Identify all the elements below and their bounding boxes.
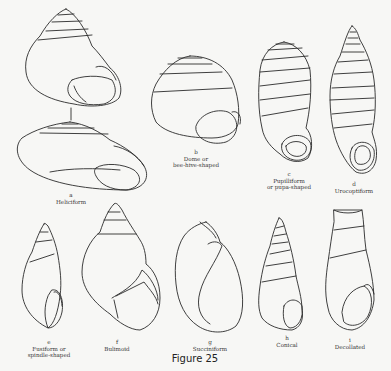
- label-a-letter: a: [56, 192, 86, 199]
- shell-d-urocoptiform-icon: [330, 26, 377, 173]
- label-f: f Bulimoid: [104, 339, 129, 352]
- shell-g-succiniform-icon: [175, 222, 242, 332]
- shell-f-bulimoid-icon: [82, 203, 160, 330]
- shell-h-conical-icon: [259, 218, 303, 330]
- shell-c-pupilliform-icon: [259, 42, 312, 161]
- shell-a-heliciform-side-icon: [26, 9, 121, 120]
- label-c-letter: c: [267, 171, 311, 178]
- label-d-name: Urocoptiform: [335, 188, 373, 195]
- label-h-name: Conical: [276, 342, 297, 349]
- label-b: b Dome or bee-hive-shaped: [173, 149, 219, 169]
- shell-e-fusiform-icon: [22, 223, 63, 328]
- label-e: e Fusiform or spindle-shaped: [28, 339, 71, 359]
- label-e-letter: e: [28, 339, 71, 346]
- label-h-letter: h: [276, 335, 297, 342]
- label-d-letter: d: [335, 181, 373, 188]
- label-i-letter: i: [335, 337, 365, 344]
- label-i: i Decollated: [335, 337, 365, 350]
- figure-caption: Figure 25: [172, 353, 218, 364]
- label-a-name: Heliciform: [56, 199, 86, 206]
- label-c: c Pupilliform or pupa-shaped: [267, 171, 311, 191]
- label-i-name: Decollated: [335, 344, 365, 351]
- label-f-letter: f: [104, 339, 129, 346]
- shell-i-decollated-icon: [326, 210, 374, 330]
- label-b-letter: b: [173, 149, 219, 156]
- label-b-name: Dome or: [173, 156, 219, 163]
- shell-forms-illustration: [0, 0, 391, 371]
- label-e-name2: spindle-shaped: [28, 352, 71, 359]
- label-f-name: Bulimoid: [104, 346, 129, 353]
- label-c-name2: or pupa-shaped: [267, 184, 311, 191]
- label-g-letter: g: [193, 339, 227, 346]
- label-e-name: Fusiform or: [28, 346, 71, 353]
- label-g: g Succiniform: [193, 339, 227, 352]
- label-b-name2: bee-hive-shaped: [173, 162, 219, 169]
- shell-a-heliciform-top-icon: [17, 122, 146, 190]
- shell-b-dome-icon: [152, 56, 241, 143]
- label-g-name: Succiniform: [193, 346, 227, 353]
- label-a: a Heliciform: [56, 192, 86, 205]
- label-c-name: Pupilliform: [267, 178, 311, 185]
- label-h: h Conical: [276, 335, 297, 348]
- label-d: d Urocoptiform: [335, 181, 373, 194]
